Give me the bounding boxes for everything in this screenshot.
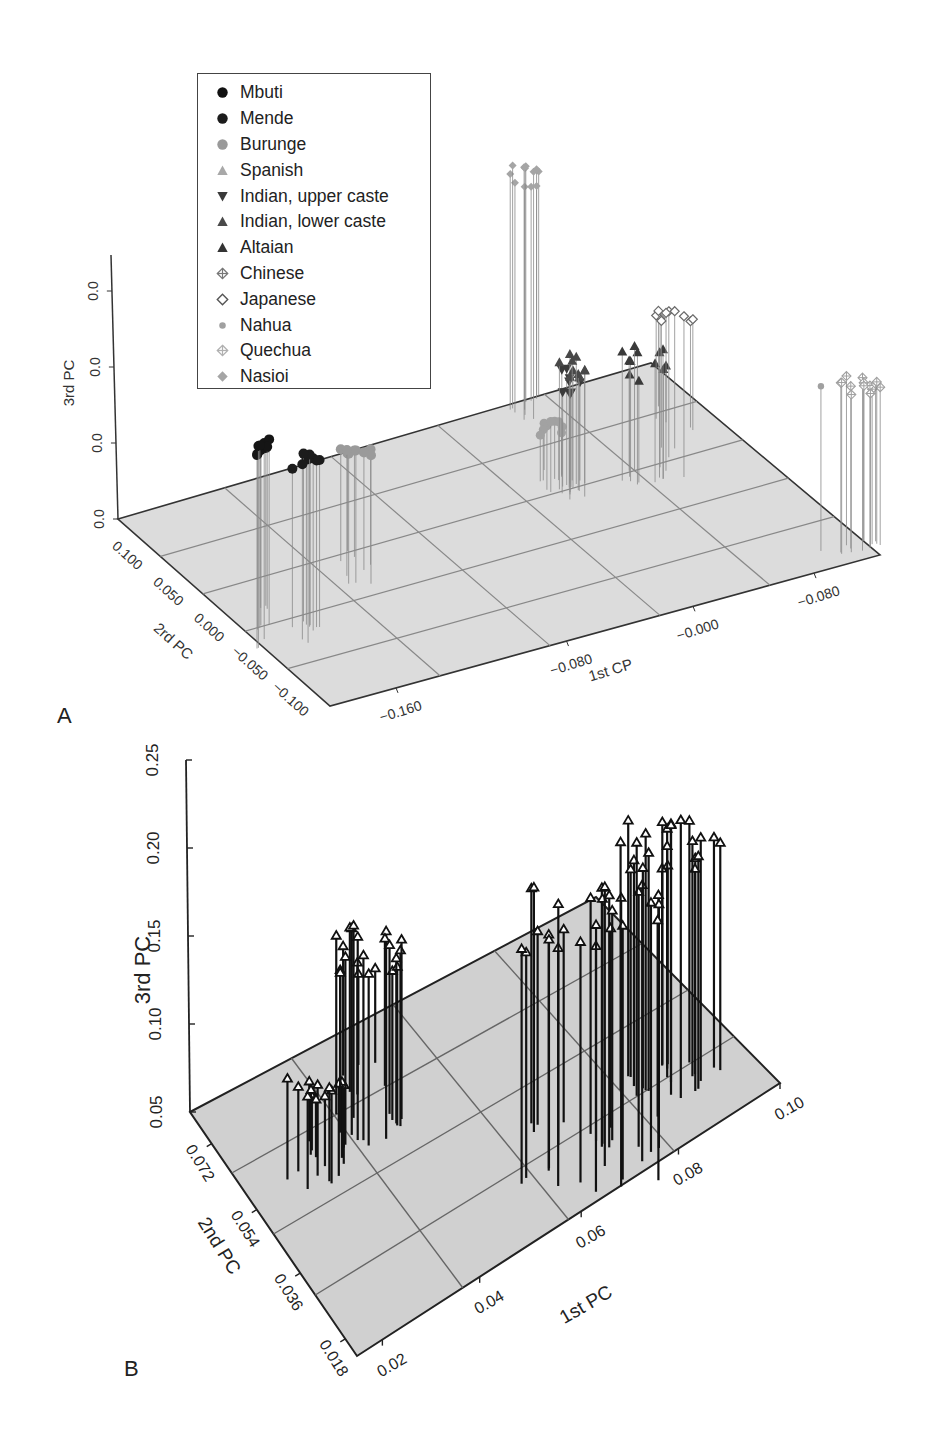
- legend-label: Mende: [240, 108, 294, 129]
- stem-cluster: [554, 349, 589, 499]
- svg-text:0.0: 0.0: [89, 433, 105, 453]
- triangle-up-marker-icon: [212, 164, 232, 177]
- legend-item: Quechua: [198, 338, 430, 364]
- panel-a-legend: MbutiMendeBurungeSpanishIndian, upper ca…: [197, 73, 431, 389]
- legend-item: Burunge: [198, 132, 430, 158]
- legend-label: Japanese: [240, 289, 316, 310]
- svg-text:0.25: 0.25: [143, 743, 162, 776]
- legend-item: Mbuti: [198, 80, 430, 106]
- svg-text:0.018: 0.018: [316, 1337, 352, 1380]
- open-diamond-marker-icon: [212, 293, 232, 306]
- filled-circle-marker-icon: [212, 138, 232, 151]
- svg-text:0.06: 0.06: [573, 1221, 609, 1251]
- legend-item: Nahua: [198, 312, 430, 338]
- panel-a-x-label: 1st CP: [586, 655, 634, 684]
- legend-label: Spanish: [240, 160, 303, 181]
- legend-label: Indian, upper caste: [240, 186, 389, 207]
- crossed-diamond-marker-icon: [212, 267, 232, 280]
- svg-text:0.072: 0.072: [183, 1141, 219, 1184]
- svg-text:0.08: 0.08: [670, 1159, 706, 1189]
- legend-item: Mende: [198, 106, 430, 132]
- panel-b-letter: B: [124, 1356, 139, 1382]
- svg-text:0.0: 0.0: [85, 281, 101, 301]
- legend-label: Burunge: [240, 134, 306, 155]
- figure: 0.00.00.00.0 3rd PC 0.1000.0500.000−0.05…: [0, 0, 928, 1437]
- svg-text:−0.080: −0.080: [796, 582, 842, 610]
- filled-diamond-marker-icon: [212, 370, 232, 383]
- filled-circle-marker-icon: [212, 86, 232, 99]
- svg-text:0.0: 0.0: [87, 357, 103, 377]
- panel-a-3d-plot: 0.00.00.00.0 3rd PC 0.1000.0500.000−0.05…: [0, 0, 928, 730]
- panel-b-x-label: 1st PC: [556, 1281, 616, 1328]
- crossed-diamond-marker-icon: [212, 344, 232, 357]
- svg-text:0.05: 0.05: [147, 1095, 166, 1128]
- triangle-up-marker-icon: [212, 241, 232, 254]
- panel-b-3d-plot: 0.050.100.150.200.25 3rd PC 0.0180.0360.…: [0, 730, 928, 1437]
- legend-label: Chinese: [240, 263, 304, 284]
- panel-a-y-label: 2rd PC: [151, 619, 197, 663]
- filled-circle-marker-icon: [212, 112, 232, 125]
- triangle-up-marker-icon: [212, 215, 232, 228]
- svg-text:0.0: 0.0: [91, 509, 107, 529]
- svg-text:0.02: 0.02: [374, 1350, 410, 1380]
- panel-a-z-label: 3rd PC: [60, 359, 77, 406]
- legend-label: Quechua: [240, 340, 311, 361]
- legend-item: Japanese: [198, 286, 430, 312]
- legend-label: Indian, lower caste: [240, 211, 386, 232]
- legend-label: Nahua: [240, 315, 292, 336]
- triangle-down-marker-icon: [212, 190, 232, 203]
- svg-text:−0.000: −0.000: [675, 616, 721, 644]
- legend-item: Altaian: [198, 235, 430, 261]
- stem-cluster: [506, 162, 542, 420]
- small-circle-marker-icon: [212, 319, 232, 332]
- panel-a-z-axis: [111, 255, 118, 519]
- svg-text:0.054: 0.054: [228, 1207, 264, 1250]
- svg-text:0.10: 0.10: [772, 1093, 808, 1123]
- svg-text:0.20: 0.20: [144, 831, 163, 864]
- svg-text:0.036: 0.036: [271, 1271, 307, 1314]
- svg-text:0.100: 0.100: [109, 538, 146, 573]
- legend-item: Nasioi: [198, 364, 430, 390]
- panel-b-z-label: 3rd PC: [130, 936, 155, 1005]
- legend-item: Indian, lower caste: [198, 209, 430, 235]
- svg-text:0.10: 0.10: [146, 1007, 165, 1040]
- legend-label: Nasioi: [240, 366, 289, 387]
- legend-item: Indian, upper caste: [198, 183, 430, 209]
- legend-label: Mbuti: [240, 82, 283, 103]
- legend-item: Spanish: [198, 157, 430, 183]
- svg-text:−0.160: −0.160: [378, 697, 424, 725]
- legend-item: Chinese: [198, 261, 430, 287]
- legend-label: Altaian: [240, 237, 294, 258]
- svg-text:0.000: 0.000: [191, 610, 228, 645]
- svg-text:0.04: 0.04: [471, 1287, 507, 1317]
- panel-a-letter: A: [57, 703, 72, 729]
- svg-text:0.050: 0.050: [150, 574, 187, 609]
